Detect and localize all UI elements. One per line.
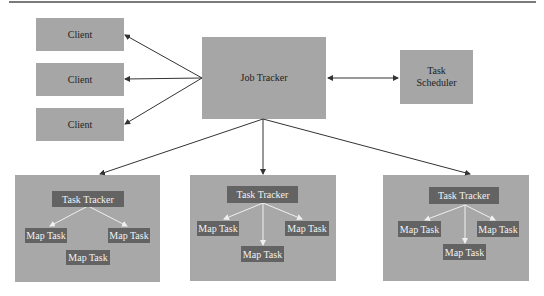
map-task-box: Map Task [197, 221, 239, 236]
map-task-label: Map Task [243, 249, 282, 260]
task-tracker-box-3: Task Tracker [429, 187, 499, 204]
map-task-label: Map Task [198, 223, 237, 234]
map-task-box: Map Task [443, 244, 486, 260]
map-task-label: Map Task [287, 223, 326, 234]
map-task-box: Map Task [25, 228, 67, 243]
map-task-box: Map Task [285, 221, 329, 236]
map-task-label: Map Task [26, 230, 65, 241]
map-task-label: Map Task [68, 252, 107, 263]
task-tracker-label: Task Tracker [237, 189, 289, 200]
map-task-box: Map Task [241, 246, 284, 262]
map-task-label: Map Task [109, 230, 148, 241]
map-task-box: Map Task [477, 221, 519, 237]
map-task-label: Map Task [445, 247, 484, 258]
task-tracker-label: Task Tracker [438, 190, 490, 201]
task-tracker-box-1: Task Tracker [52, 191, 124, 207]
map-task-box: Map Task [66, 250, 110, 265]
map-task-box: Map Task [108, 228, 150, 243]
map-task-label: Map Task [400, 224, 439, 235]
task-tracker-label: Task Tracker [62, 194, 114, 205]
map-task-label: Map Task [478, 224, 517, 235]
map-task-box: Map Task [398, 221, 441, 237]
task-tracker-box-2: Task Tracker [227, 186, 298, 203]
